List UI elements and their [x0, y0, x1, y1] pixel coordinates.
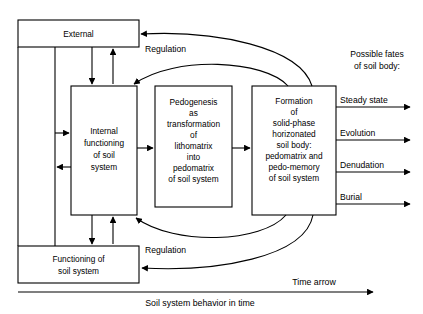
pedogenesis-line-3: transformation: [167, 119, 220, 129]
internal-functioning-line-2: functioning: [84, 138, 125, 148]
time-arrow-label: Time arrow: [292, 277, 336, 287]
pedogenesis-line-4: of: [190, 130, 198, 140]
formation-line-5: soil body:: [276, 140, 311, 150]
formation-line-2: of: [291, 107, 299, 117]
formation-line-6: pedomatrix and: [265, 151, 323, 161]
box-external: External: [18, 20, 139, 47]
box-pedogenesis: Pedogenesis as transformation of lithoma…: [155, 86, 232, 207]
curve-regulation-to-external: [141, 33, 312, 86]
functioning-line-1: Functioning of: [52, 254, 105, 264]
curve-regulation-to-internal-top: [134, 64, 288, 86]
box-formation: Formation of solid-phase horizonated soi…: [252, 86, 336, 215]
internal-functioning-line-4: system: [91, 162, 117, 172]
possible-fates-group: Possible fates of soil body: Steady stat…: [336, 49, 410, 204]
time-axis-caption: Soil system behavior in time: [145, 298, 255, 308]
pedogenesis-line-6: into: [187, 152, 201, 162]
curve-regulation-to-functioning: [142, 215, 313, 269]
functioning-box-rect: [18, 246, 139, 283]
outer-frame-bus: [18, 47, 55, 246]
fate-label-denudation: Denudation: [340, 160, 384, 170]
pedogenesis-line-2: as: [189, 108, 198, 118]
possible-fates-heading-line-1: Possible fates: [350, 49, 404, 59]
formation-line-8: of soil system: [269, 173, 319, 183]
fate-label-evolution: Evolution: [340, 128, 376, 138]
functioning-line-2: soil system: [58, 266, 99, 276]
fate-label-burial: Burial: [340, 192, 362, 202]
pedogenesis-line-1: Pedogenesis: [170, 97, 218, 107]
pedogenesis-line-5: lithomatrix: [175, 141, 214, 151]
regulation-bottom-label: Regulation: [145, 245, 186, 255]
box-functioning: Functioning of soil system: [18, 246, 139, 283]
formation-line-7: pedo-memory: [268, 162, 320, 172]
internal-functioning-line-1: Internal: [90, 126, 118, 136]
fate-label-steady-state: Steady state: [340, 95, 388, 105]
formation-line-3: solid-phase: [273, 118, 316, 128]
pedogenesis-line-8: of soil system: [168, 174, 218, 184]
external-box-label: External: [63, 29, 94, 39]
formation-line-1: Formation: [275, 96, 313, 106]
pedogenesis-line-7: pedomatrix: [173, 163, 215, 173]
soil-system-diagram: External Internal functioning of soil sy…: [0, 0, 423, 314]
diagram-canvas: External Internal functioning of soil sy…: [0, 0, 423, 314]
internal-functioning-line-3: of soil: [93, 150, 115, 160]
formation-line-4: horizonated: [272, 129, 316, 139]
regulation-top-label: Regulation: [145, 44, 186, 54]
box-internal-functioning: Internal functioning of soil system: [71, 86, 137, 215]
possible-fates-heading-line-2: of soil body:: [354, 61, 400, 71]
curve-regulation-to-internal-bottom: [136, 215, 286, 238]
